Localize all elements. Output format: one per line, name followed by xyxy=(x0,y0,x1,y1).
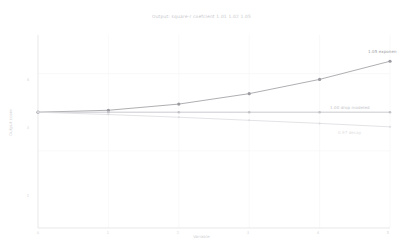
x-tick-label: 2 xyxy=(177,231,179,235)
y-tick-label: 2 xyxy=(15,194,29,198)
data-point-marker xyxy=(389,111,392,114)
x-tick-label: 0 xyxy=(37,231,39,235)
x-axis-label: Variable xyxy=(0,234,403,239)
x-tick-label: 1 xyxy=(107,231,109,235)
data-point-marker xyxy=(178,111,181,114)
data-point-marker xyxy=(37,111,39,113)
data-series xyxy=(36,60,391,128)
x-tick-label: 3 xyxy=(247,231,249,235)
series-annotation-decay: 0.97 decay xyxy=(338,130,361,135)
data-point-marker xyxy=(318,78,321,81)
data-point-marker xyxy=(248,119,250,121)
data-point-marker xyxy=(388,60,391,63)
data-point-marker xyxy=(389,126,391,128)
data-point-marker xyxy=(178,116,180,118)
y-tick-label: 4 xyxy=(15,78,29,82)
y-tick-label: 3 xyxy=(15,126,29,130)
chart-title: Output: square-r coefcient 1.01 1.02 1.0… xyxy=(0,14,403,19)
data-point-marker xyxy=(107,111,110,114)
data-point-marker xyxy=(248,111,251,114)
data-point-marker xyxy=(319,122,321,124)
series-line xyxy=(38,112,390,127)
plot-area xyxy=(0,0,403,252)
data-point-marker xyxy=(107,114,109,116)
chart-page: Output: square-r coefcient 1.01 1.02 1.0… xyxy=(0,0,403,252)
data-point-marker xyxy=(177,102,180,105)
x-tick-label: 4 xyxy=(317,231,319,235)
series-annotation-exponential: 1.05 exponen xyxy=(368,49,397,54)
chart-figure: Output: square-r coefcient 1.01 1.02 1.0… xyxy=(0,0,403,252)
y-axis-label: Output score xyxy=(8,101,13,145)
series-annotation-modeled: 1.00 drop modeled xyxy=(330,105,370,110)
x-tick-label: 5 xyxy=(387,231,389,235)
data-point-marker xyxy=(248,92,251,95)
data-point-marker xyxy=(318,111,321,114)
